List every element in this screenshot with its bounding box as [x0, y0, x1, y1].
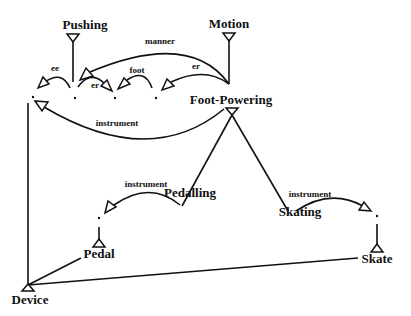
edge-label-ee: ee [51, 63, 59, 73]
ee-arrowhead-icon [38, 77, 49, 88]
dot-node-1 [32, 96, 34, 98]
motion-triangle-icon [223, 33, 235, 41]
node-motion: Motion [209, 16, 250, 31]
edge-label-instrument-1: instrument [96, 118, 139, 128]
instrument3-arrowhead-icon [359, 202, 371, 211]
dot-node-3 [114, 97, 116, 99]
manner-arc [90, 54, 229, 84]
edge-label-manner: manner [145, 36, 175, 46]
dot-node-skate [376, 215, 378, 217]
node-pedal: Pedal [83, 246, 114, 261]
node-pedalling: Pedalling [164, 185, 217, 200]
pushing-triangle-icon [67, 34, 79, 42]
edge-label-foot: foot [130, 65, 145, 75]
edge-device-skate [28, 258, 358, 285]
edge-foot-powering-skating [232, 115, 288, 211]
node-device: Device [12, 292, 49, 307]
diagram-canvas: Pushing Motion Foot-Powering Pedalling S… [0, 0, 411, 316]
edge-label-er-2: er [192, 61, 200, 71]
er2-arc [171, 74, 229, 84]
instrument2-arrowhead-icon [105, 201, 116, 213]
node-pushing: Pushing [63, 17, 108, 32]
foot-arc [127, 76, 152, 89]
dot-node-2 [74, 97, 76, 99]
node-skating: Skating [279, 204, 322, 219]
semantic-network-diagram: Pushing Motion Foot-Powering Pedalling S… [0, 0, 411, 316]
edge-label-er-1: er [91, 80, 99, 90]
dot-node-pedal [98, 217, 100, 219]
node-skate: Skate [361, 251, 392, 266]
foot-powering-triangle-icon [226, 108, 238, 115]
edge-label-instrument-2: instrument [125, 179, 168, 189]
node-foot-powering: Foot-Powering [190, 92, 273, 107]
edge-label-instrument-3: instrument [289, 189, 332, 199]
instrument1-arrowhead-icon [35, 101, 48, 111]
dot-node-4 [155, 97, 157, 99]
